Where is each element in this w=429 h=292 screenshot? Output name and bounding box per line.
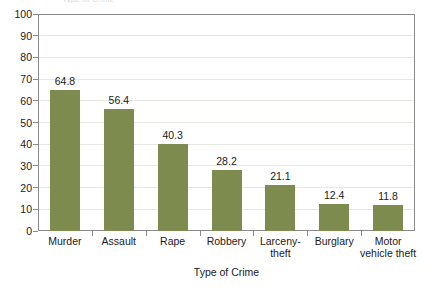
bar-value-label: 28.2 [202,156,252,167]
y-tick-label-60: 60 [4,96,32,106]
clipped-top-caption: Type of Crime [62,0,362,3]
bar-chart-figure: Type of Crime 0102030405060708090100 64.… [0,0,429,292]
bar-value-label: 56.4 [94,95,144,106]
bar-value-label: 64.8 [40,76,90,87]
y-tick-label-90: 90 [4,31,32,41]
bar-group[interactable]: 64.8 [50,14,80,231]
bar-value-label: 40.3 [148,130,198,141]
x-label-line: vehicle theft [355,248,421,260]
y-tick-label-70: 70 [4,74,32,84]
bar-group[interactable]: 11.8 [373,14,403,231]
y-tick-label-30: 30 [4,161,32,171]
bar-group[interactable]: 12.4 [319,14,349,231]
x-axis-title: Type of Crime [38,266,415,278]
bar-group[interactable]: 21.1 [265,14,295,231]
bar-value-label: 11.8 [363,191,413,202]
bar-group[interactable]: 40.3 [158,14,188,231]
bar[interactable] [319,204,349,231]
y-tick-label-80: 80 [4,52,32,62]
x-axis-category-labels: MurderAssaultRapeRobberyLarceny-theftBur… [38,236,415,262]
bar-group[interactable]: 56.4 [104,14,134,231]
y-tick-label-0: 0 [4,226,32,236]
bar[interactable] [158,144,188,231]
y-tick-label-20: 20 [4,183,32,193]
y-tick-label-40: 40 [4,139,32,149]
bar[interactable] [212,170,242,231]
bar[interactable] [373,205,403,231]
y-tick-label-50: 50 [4,118,32,128]
bar-value-label: 12.4 [309,190,359,201]
bar[interactable] [50,90,80,231]
y-axis-labels: 0102030405060708090100 [0,14,32,232]
bar-group[interactable]: 28.2 [212,14,242,231]
x-axis-label: Motorvehicle theft [355,236,421,259]
bar[interactable] [265,185,295,231]
x-label-line: Motor [355,236,421,248]
bar-value-label: 21.1 [255,171,305,182]
x-label-line: theft [247,248,313,260]
bars-layer: 64.856.440.328.221.112.411.8 [38,14,415,231]
y-tick-label-100: 100 [4,9,32,19]
y-tick-label-10: 10 [4,204,32,214]
bar[interactable] [104,109,134,231]
